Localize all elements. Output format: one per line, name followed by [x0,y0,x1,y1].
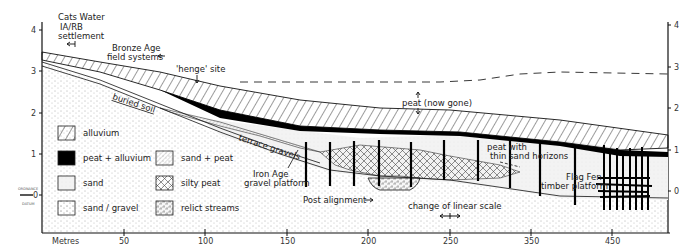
label-thin-sand-horizons: thin sand horizons [490,151,569,161]
y-tick-label: 0 [33,191,38,200]
label-cats-water: Cats Water [58,12,105,22]
label-cats-water-settlement: settlement [58,31,105,41]
label-gravel-platform: gravel platform [244,178,310,188]
y-tick-label: 0 [674,187,679,196]
y-tick-label: 4 [674,21,679,30]
legend-item-alluvium: alluvium [58,126,119,140]
label-field-systems: field systems [107,52,164,62]
legend-label: silty peat [181,178,221,188]
arrow-left-icon [67,41,75,47]
legend-item-sand-gravel: sand / gravel [58,201,138,215]
y-tick-label: 4 [31,26,36,35]
label-change-of-linear-scale: change of linear scale [408,201,502,211]
y-tick-label: 2 [674,104,679,113]
legend-label: sand + peat [181,153,234,163]
label-henge-site: 'henge' site [176,64,225,74]
y-tick-label: 3 [674,63,679,72]
x-tick-label: 100 [198,237,213,246]
y-tick-label: 1 [674,146,679,155]
label-timber-platform: timber platform [541,181,608,191]
legend-item-relict-streams: relict streams [156,201,240,215]
legend-item-silty-peat: silty peat [156,176,221,190]
datum-label-bottom: DATUM [22,202,34,206]
legend-item-sand-peat: sand + peat [156,151,234,165]
y-tick-label: 2 [31,109,36,118]
legend-label: alluvium [83,128,119,138]
x-tick-label: 150 [280,237,295,246]
legend-label: peat + alluvium [83,153,151,163]
x-tick-label: 200 [361,237,376,246]
label-peat-now-gone: peat (now gone) [402,98,472,108]
x-tick-label: 450 [605,237,620,246]
legend-item-peat-alluvium: peat + alluvium [58,151,151,165]
right-y-ticks: 4 3 2 1 0 [668,21,679,196]
x-axis-label: Metres [52,237,79,246]
legend-label: sand / gravel [83,203,138,213]
x-tick-label: 250 [443,237,458,246]
x-tick-label: 350 [524,237,539,246]
y-tick-label: 3 [31,67,36,76]
x-tick-label: 50 [119,237,129,246]
legend-label: sand [83,178,103,188]
former-peat-surface [240,72,668,82]
y-tick-label: 1 [31,150,36,159]
stratigraphic-section-diagram: 4 3 2 1 0 ORDNANCE DATUM 4 3 2 1 0 Metre… [0,0,685,248]
left-y-ticks: 4 3 2 1 0 ORDNANCE DATUM [18,26,42,206]
label-post-alignment: Post alignment [303,195,367,205]
legend-label: relict streams [181,203,240,213]
layer-relict-streams [368,178,420,190]
datum-label-top: ORDNANCE [18,187,38,191]
